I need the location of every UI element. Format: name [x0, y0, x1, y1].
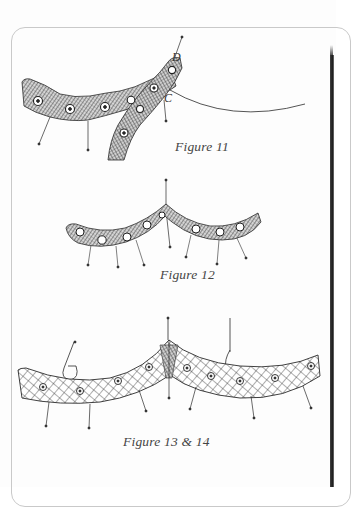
point-label-d: D: [172, 50, 181, 65]
figure-11-caption: Figure 11: [175, 139, 229, 155]
figure-13-14-drawing: [18, 317, 320, 429]
figure-12-caption: Figure 12: [160, 267, 215, 283]
point-label-c: C: [164, 91, 172, 106]
figure-12-drawing: [66, 179, 261, 268]
figure-13-14-caption: Figure 13 & 14: [123, 434, 210, 450]
